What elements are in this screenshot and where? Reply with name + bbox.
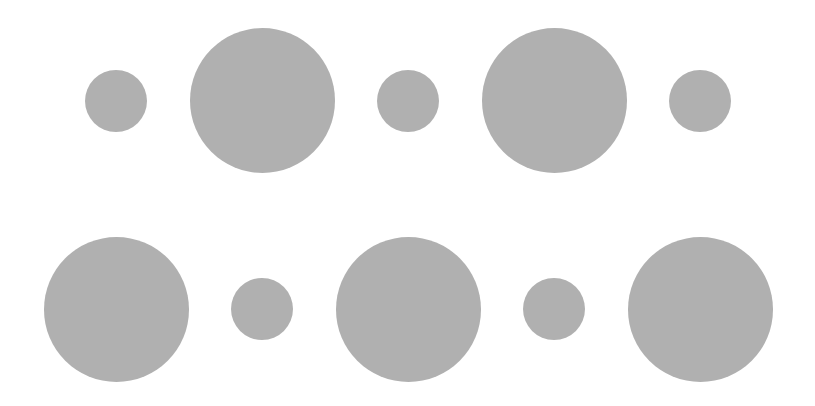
large-circle bbox=[190, 28, 335, 173]
large-circle bbox=[44, 237, 189, 382]
large-circle bbox=[482, 28, 627, 173]
large-circle bbox=[336, 237, 481, 382]
small-circle bbox=[669, 70, 731, 132]
small-circle bbox=[231, 278, 293, 340]
small-circle bbox=[85, 70, 147, 132]
large-circle bbox=[628, 237, 773, 382]
small-circle bbox=[523, 278, 585, 340]
circle-pattern-canvas bbox=[0, 0, 815, 406]
small-circle bbox=[377, 70, 439, 132]
